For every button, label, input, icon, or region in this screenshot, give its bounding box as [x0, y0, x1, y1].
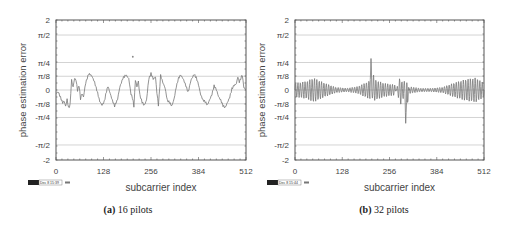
- y-tick-label: -π/2: [274, 141, 289, 150]
- x-tick-label: 256: [383, 167, 397, 176]
- x-axis-label: subcarrier index: [125, 182, 196, 193]
- caption-a-label: (a): [104, 204, 116, 215]
- chart-a: 2π/2π/4π/80-π/8-π/4-π/2-20128256384512su…: [0, 0, 256, 235]
- y-tick-label: 2: [285, 16, 290, 25]
- chart-panel-b: 2π/2π/4π/80-π/8-π/4-π/2-20128256384512su…: [256, 0, 512, 235]
- y-axis-label: phase estimation error: [256, 43, 267, 138]
- x-tick-label: 512: [477, 167, 491, 176]
- outlier-point: [132, 56, 134, 58]
- x-tick-label: 384: [192, 167, 206, 176]
- gmt-timestamp-stamp: Dec 8 15:39: [28, 180, 70, 185]
- svg-text:Dec 8 15:39: Dec 8 15:39: [40, 181, 59, 185]
- y-tick-label: π/8: [277, 72, 290, 81]
- y-tick-label: π/4: [38, 59, 51, 68]
- x-tick-label: 0: [54, 167, 59, 176]
- y-tick-label: π/2: [38, 31, 51, 40]
- x-tick-label: 128: [97, 167, 111, 176]
- caption-b: (b) 32 pilots: [256, 204, 512, 215]
- gmt-timestamp-stamp: Dec 8 15:44: [267, 180, 309, 185]
- chart-panel-a: 2π/2π/4π/80-π/8-π/4-π/2-20128256384512su…: [0, 0, 256, 235]
- y-tick-label: π/8: [38, 72, 51, 81]
- caption-a-text: 16 pilots: [118, 204, 153, 215]
- y-tick-label: 0: [46, 86, 51, 95]
- y-tick-label: -π/2: [35, 141, 50, 150]
- y-tick-label: -π/8: [274, 100, 289, 109]
- y-tick-label: -2: [43, 156, 51, 165]
- caption-a: (a) 16 pilots: [0, 204, 256, 215]
- x-tick-label: 384: [430, 167, 444, 176]
- y-tick-label: -π/4: [35, 113, 50, 122]
- series-line: [295, 59, 484, 124]
- x-axis-label: subcarrier index: [364, 182, 435, 193]
- x-tick-label: 512: [239, 167, 253, 176]
- x-tick-label: 256: [144, 167, 158, 176]
- y-tick-label: -2: [282, 156, 290, 165]
- y-tick-label: π/4: [277, 59, 290, 68]
- y-tick-label: -π/8: [35, 100, 50, 109]
- chart-b: 2π/2π/4π/80-π/8-π/4-π/2-20128256384512su…: [256, 0, 512, 235]
- y-tick-label: π/2: [277, 31, 290, 40]
- y-tick-label: 0: [285, 86, 290, 95]
- caption-b-text: 32 pilots: [374, 204, 409, 215]
- svg-text:Dec 8 15:44: Dec 8 15:44: [279, 181, 298, 185]
- x-tick-label: 128: [336, 167, 350, 176]
- y-tick-label: 2: [46, 16, 51, 25]
- x-tick-label: 0: [293, 167, 298, 176]
- y-axis-label: phase estimation error: [17, 43, 28, 138]
- caption-b-label: (b): [359, 204, 371, 215]
- y-tick-label: -π/4: [274, 113, 289, 122]
